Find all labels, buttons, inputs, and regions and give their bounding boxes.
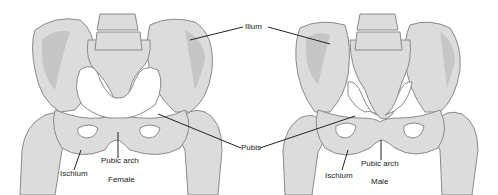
female-pelvis xyxy=(20,14,243,195)
female-title: Female xyxy=(108,176,135,184)
pelvis-diagram: .bone{fill:#dcdcdc;stroke:#8a8a8a;stroke… xyxy=(0,0,498,195)
female-ischium-label: Ischium xyxy=(60,170,88,178)
male-title: Male xyxy=(371,178,388,186)
male-ischium-label: Ischium xyxy=(325,172,353,180)
female-pubic-arch-label: Pubic arch xyxy=(101,157,139,165)
male-pubic-arch-label: Pubic arch xyxy=(361,160,399,168)
ilium-label: Ilium xyxy=(245,23,262,31)
pubis-label: Pubis xyxy=(241,144,261,152)
